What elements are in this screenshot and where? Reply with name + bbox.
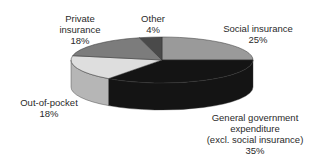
label-general-line3: (excl. social insurance): [200, 134, 310, 145]
label-private-line2: insurance: [50, 24, 110, 35]
label-other-line1: Other: [133, 13, 173, 24]
label-general-government: General government expenditure (excl. so…: [200, 112, 310, 156]
label-out-of-pocket: Out-of-pocket 18%: [14, 97, 84, 119]
label-social-insurance: Social insurance 25%: [210, 23, 306, 45]
label-other-pct: 4%: [133, 24, 173, 35]
label-general-line1: General government: [200, 112, 310, 123]
label-social-line1: Social insurance: [210, 23, 306, 34]
label-social-pct: 25%: [210, 34, 306, 45]
label-other: Other 4%: [133, 13, 173, 35]
label-private-line1: Private: [50, 13, 110, 24]
label-oop-pct: 18%: [14, 108, 84, 119]
label-oop-line1: Out-of-pocket: [14, 97, 84, 108]
label-general-line2: expenditure: [200, 123, 310, 134]
label-general-pct: 35%: [200, 145, 310, 156]
label-private-insurance: Private insurance 18%: [50, 13, 110, 46]
label-private-pct: 18%: [50, 35, 110, 46]
